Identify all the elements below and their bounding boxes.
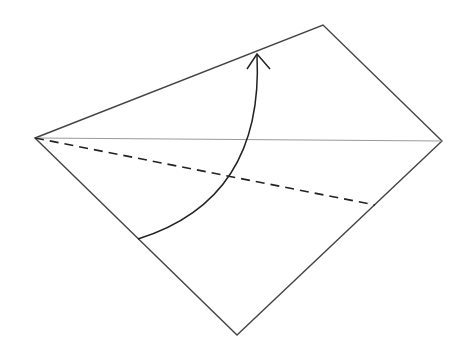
paper-outline — [35, 25, 442, 335]
origami-diagram — [0, 0, 459, 359]
